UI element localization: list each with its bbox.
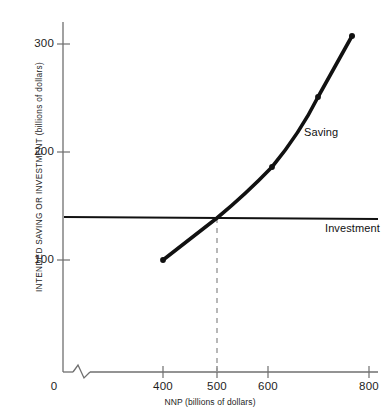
saving-series-label: Saving (304, 126, 338, 138)
x-tick-label-800: 800 (348, 380, 390, 392)
x-axis-title: NNP (billions of dollars) (150, 397, 270, 407)
x-tick-label-400: 400 (142, 380, 184, 392)
saving-curve (163, 36, 352, 260)
chart-canvas (0, 0, 392, 418)
x-tick-label-500: 500 (196, 380, 238, 392)
saving-point-765 (349, 33, 355, 39)
saving-investment-chart: 300 200 100 0 400 500 600 800 NNP (billi… (0, 0, 392, 418)
y-tick-label-300: 300 (16, 37, 54, 49)
x-tick-label-600: 600 (247, 380, 289, 392)
saving-point-600 (269, 164, 275, 170)
x-tick-label-0: 0 (43, 380, 65, 392)
investment-series-label: Investment (325, 222, 380, 234)
saving-point-400 (160, 257, 166, 263)
x-axis-break-icon (73, 365, 90, 378)
y-axis-title: INTENDED SAVING OR INVESTMENT (billions … (35, 62, 44, 292)
saving-point-700 (315, 94, 321, 100)
investment-line (64, 217, 378, 219)
